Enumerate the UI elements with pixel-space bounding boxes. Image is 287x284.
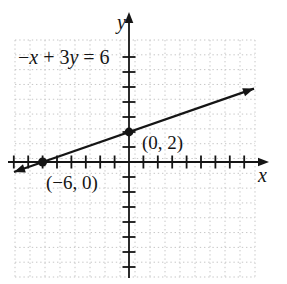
x-intercept-label: (−6, 0) (46, 172, 98, 194)
y-axis-label: y (115, 11, 126, 34)
equation-label: −x + 3y = 6 (18, 46, 110, 69)
x-axis-label: x (257, 164, 267, 186)
line-graph-svg: −x + 3y = 6(−6, 0)(0, 2)yx (0, 0, 287, 284)
coordinate-plane-figure: −x + 3y = 6(−6, 0)(0, 2)yx (0, 0, 287, 284)
graph-line (14, 89, 254, 172)
point-x-intercept (38, 158, 47, 167)
graph-line-arrowhead-left-icon (14, 164, 26, 172)
y-intercept-label: (0, 2) (142, 132, 183, 154)
point-y-intercept (125, 128, 134, 137)
graph-line-arrowhead-right-icon (242, 88, 254, 96)
